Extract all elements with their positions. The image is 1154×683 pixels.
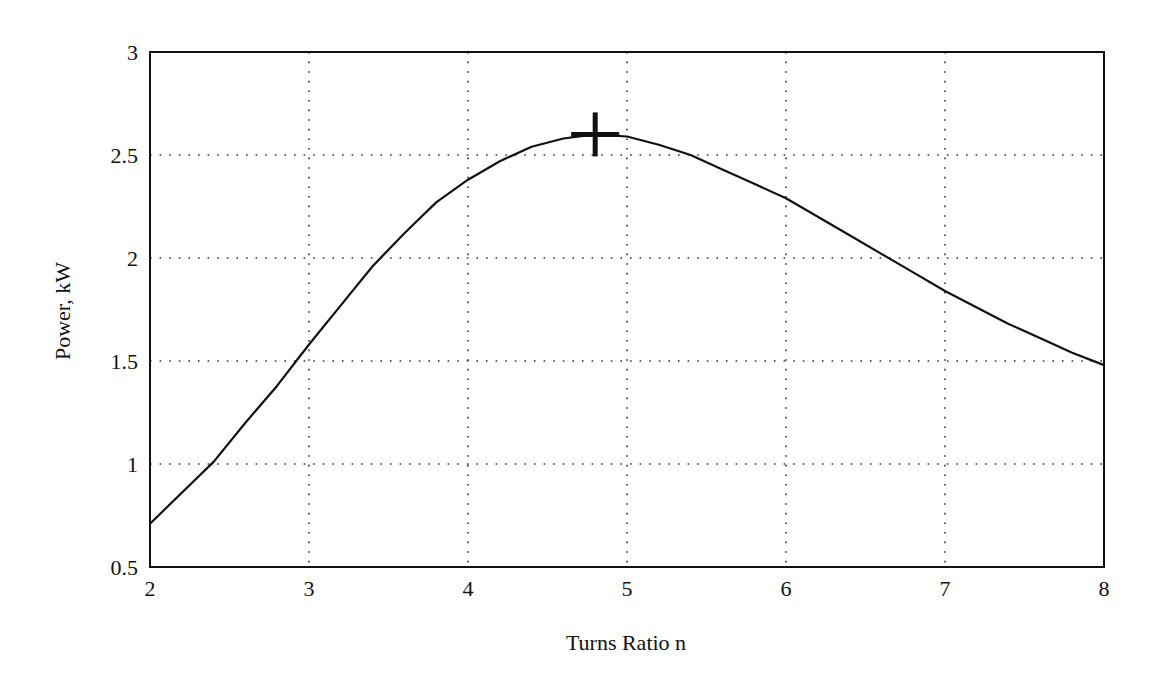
x-axis-tick-labels: 2345678 <box>145 576 1110 601</box>
y-tick-label: 1 <box>127 452 138 477</box>
max-power-marker <box>571 112 619 156</box>
y-axis-tick-labels: 0.511.522.53 <box>111 40 139 580</box>
x-tick-label: 7 <box>940 576 951 601</box>
y-tick-label: 2 <box>127 246 138 271</box>
x-axis-label: Turns Ratio n <box>566 630 686 655</box>
y-tick-label: 1.5 <box>111 349 139 374</box>
x-tick-label: 3 <box>304 576 315 601</box>
x-tick-label: 2 <box>145 576 156 601</box>
power-vs-turns-ratio-chart: 2345678 0.511.522.53 Turns Ratio n Power… <box>0 0 1154 683</box>
y-tick-label: 0.5 <box>111 555 139 580</box>
x-tick-label: 5 <box>622 576 633 601</box>
y-tick-label: 3 <box>127 40 138 65</box>
x-tick-label: 6 <box>781 576 792 601</box>
grid-lines <box>150 52 1104 567</box>
y-axis-label: Power, kW <box>50 262 75 360</box>
y-tick-label: 2.5 <box>111 143 139 168</box>
x-tick-label: 4 <box>463 576 474 601</box>
x-tick-label: 8 <box>1099 576 1110 601</box>
